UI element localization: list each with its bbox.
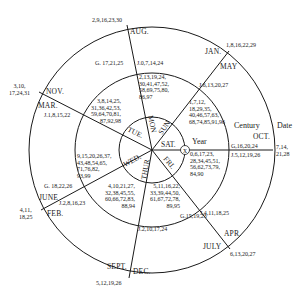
century-values-apr-right: J.4,11,18,25: [200, 210, 229, 217]
century-values-mar: J.1,8,15,22: [44, 112, 70, 119]
century-values-aug-left: G. 17,21,25: [95, 60, 123, 67]
century-values-aug-right: J.0,7,14,24: [137, 60, 163, 67]
month-jan: JAN.: [205, 48, 221, 56]
day-wed: WED.: [122, 152, 143, 169]
day-thur: THUR: [139, 159, 151, 181]
year-values-wed-thur: 4,10,21,27, 32,38,45,55, 60,66,72,83, 88…: [105, 183, 135, 209]
month-july: JULY: [203, 243, 221, 251]
month-mar: MAR.: [38, 102, 58, 110]
century-values-oct-upper: G,16,20,24: [231, 143, 258, 150]
century-values-jan-may: J.6,13,20,27: [199, 82, 228, 89]
century-values-feb: J.2,8,16,23: [59, 200, 85, 207]
month-dec: DEC.: [133, 268, 151, 276]
date-values-aug: 2,9,16,23,30: [92, 17, 122, 24]
century-values-june: G. 18,22,26: [44, 183, 72, 190]
calendar-wheel: X SAT. SUN MON TUE. WED. THUR FRI.: [0, 0, 305, 294]
date-header: Date: [277, 121, 292, 130]
month-june: JUNE: [39, 194, 58, 202]
year-values-mon-tue: 3,8,14,25, 31,36,42,53, 59,64,70,81, 87,…: [91, 98, 121, 124]
center-marker-x: X: [183, 148, 187, 154]
year-values-tue-wed: 9,15,20,26,37, 43,48,54,65, 71,76,82, 93…: [77, 153, 112, 179]
century-header: Century: [234, 121, 260, 130]
month-apr: APR.: [224, 230, 241, 238]
day-sat: SAT.: [161, 140, 176, 149]
month-aug: AUG.: [130, 28, 149, 36]
month-may: MAY: [220, 63, 237, 71]
date-values-sept-dec: 5,12,19,26: [96, 280, 122, 287]
century-values-oct-lower: J.5,12,19,26: [231, 152, 260, 159]
date-values-jan-may: 1,8,16,22,29: [226, 42, 256, 49]
month-oct: OCT.: [253, 133, 270, 141]
date-values-apr-july: 6,13,20,27: [230, 251, 256, 258]
year-header: Year: [192, 137, 207, 146]
year-values-fri-sat: 0,6,17,23, 28,34,45,51, 56,62,73,79, 84,…: [190, 151, 220, 177]
month-feb: FEB.: [47, 210, 63, 218]
year-values-sun-mon: 2,13,19,24, 30,41,47,52, 58,69,75,80, 86…: [139, 74, 169, 100]
day-fri: FRI.: [161, 155, 177, 171]
date-values-june-feb: 4,11, 18,25: [19, 207, 33, 220]
month-nov: NOV.: [46, 88, 64, 96]
month-sept: SEPT.: [107, 263, 127, 271]
date-values-oct: 7,14, 21,28: [276, 144, 290, 157]
year-values-sat-sun: 1,7,12, 18,29,35, 40,46,57,63, 68,74,85,…: [189, 99, 225, 125]
year-values-thur-fri: 5,11,16,22, 33,39,44,50, 61,67,72,78, 89…: [150, 183, 180, 209]
date-values-nov-mar: 3,10, 17,24,31: [9, 83, 30, 96]
century-values-dec: J.2,10,17,24: [138, 226, 167, 233]
